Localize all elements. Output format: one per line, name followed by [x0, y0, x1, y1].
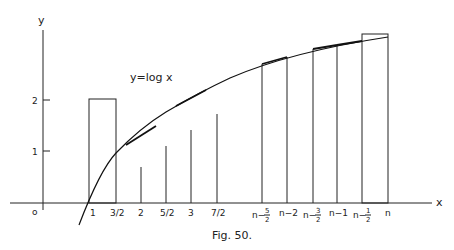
x-tick-label-n: n	[385, 208, 391, 218]
figure-caption: Fig. 50.	[212, 229, 252, 242]
svg-text:2: 2	[316, 216, 320, 224]
y-axis-label: y	[38, 14, 45, 27]
x-tick-label-2: 2	[138, 208, 144, 218]
x-tick-label-5-2: 5/2	[160, 208, 174, 218]
origin-label: o	[32, 207, 38, 217]
x-axis-label: x	[436, 196, 443, 209]
svg-text:5: 5	[265, 207, 269, 215]
svg-text:1: 1	[366, 207, 370, 215]
y-tick-label-1: 1	[32, 147, 38, 157]
x-tick-label-n-3-2: n− 3 2	[303, 207, 321, 224]
log-curve	[79, 37, 388, 225]
x-tick-label-n-1: n−1	[329, 208, 348, 218]
tangent-segment-5	[337, 41, 362, 45]
svg-text:2: 2	[265, 216, 269, 224]
svg-text:2: 2	[366, 216, 370, 224]
x-tick-label-n-2: n−2	[279, 208, 298, 218]
y-tick-label-2: 2	[32, 96, 38, 106]
left-block-rect	[89, 99, 116, 203]
svg-text:n−: n−	[353, 210, 366, 220]
right-block-rect	[362, 34, 388, 203]
tangent-segment-3	[262, 57, 287, 64]
x-tick-label-n-5-2: n− 5 2	[252, 207, 270, 224]
x-tick-label-3: 3	[188, 208, 194, 218]
tangent-segment-1	[126, 126, 156, 145]
tangent-segment-2	[176, 90, 206, 106]
x-tick-label-n-1-2: n− 1 2	[353, 207, 371, 224]
equation-label: y=log x	[130, 71, 173, 84]
svg-text:n−: n−	[303, 210, 316, 220]
x-tick-label-3-2: 3/2	[110, 208, 124, 218]
log-area-diagram: y x o 2 1 y=log x 1 3/2 2 5/2 3 7/2 n− 5…	[0, 0, 454, 250]
x-tick-label-1: 1	[90, 208, 96, 218]
svg-text:3: 3	[316, 207, 320, 215]
svg-text:n−: n−	[252, 210, 265, 220]
x-tick-label-7-2: 7/2	[211, 208, 225, 218]
